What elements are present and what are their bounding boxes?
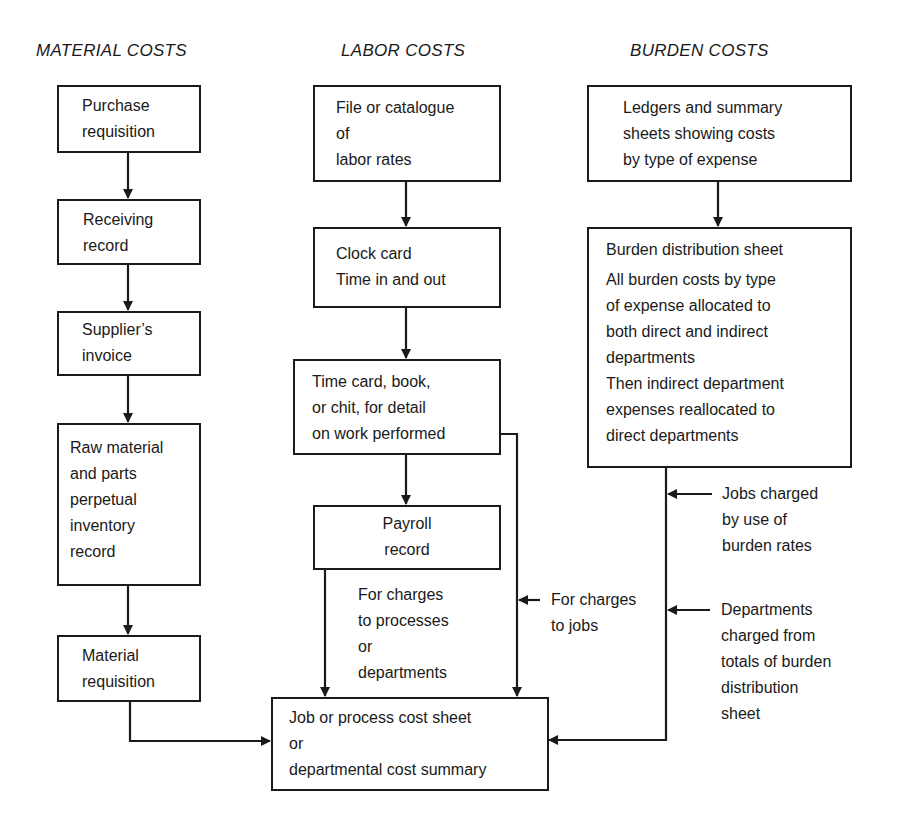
arrow-matreq-to-job bbox=[130, 701, 270, 741]
note-line: sheet bbox=[721, 701, 831, 727]
box-line: Time card, book, bbox=[312, 369, 499, 395]
note-jobs-charged-burden-rates: Jobs charged by use of burden rates bbox=[722, 481, 818, 559]
box-line: and parts bbox=[70, 461, 199, 487]
box-line: record bbox=[315, 537, 499, 563]
box-line: by type of expense bbox=[623, 147, 850, 173]
box-title: Burden distribution sheet bbox=[606, 237, 850, 263]
box-line: record bbox=[83, 233, 199, 259]
box-time-card: Time card, book, or chit, for detail on … bbox=[293, 359, 501, 455]
box-labor-rates-file: File or catalogue of labor rates bbox=[313, 85, 501, 182]
box-line: requisition bbox=[82, 669, 199, 695]
box-line: Ledgers and summary bbox=[623, 95, 850, 121]
arrow-timecard-to-job bbox=[500, 434, 517, 696]
note-line: to jobs bbox=[551, 613, 636, 639]
box-line: on work performed bbox=[312, 421, 499, 447]
box-material-requisition: Material requisition bbox=[57, 635, 201, 702]
box-job-process-cost-sheet: Job or process cost sheet or departmenta… bbox=[271, 697, 549, 791]
box-line: inventory bbox=[70, 513, 199, 539]
box-line: Receiving bbox=[83, 207, 199, 233]
note-line: Jobs charged bbox=[722, 481, 818, 507]
note-line: distribution bbox=[721, 675, 831, 701]
note-line: For charges bbox=[551, 587, 636, 613]
box-line: Material bbox=[82, 643, 199, 669]
note-line: totals of burden bbox=[721, 649, 831, 675]
box-line: invoice bbox=[82, 343, 199, 369]
box-line: requisition bbox=[82, 119, 199, 145]
box-line: departments bbox=[606, 345, 850, 371]
box-line: Raw material bbox=[70, 435, 199, 461]
box-line: Payroll bbox=[315, 511, 499, 537]
heading-labor-costs: LABOR COSTS bbox=[341, 41, 465, 61]
box-line: All burden costs by type bbox=[606, 267, 850, 293]
heading-material-costs: MATERIAL COSTS bbox=[36, 41, 187, 61]
note-line: charged from bbox=[721, 623, 831, 649]
note-charges-to-processes: For charges to processes or departments bbox=[358, 582, 449, 686]
heading-burden-costs: BURDEN COSTS bbox=[630, 41, 769, 61]
note-line: or bbox=[358, 634, 449, 660]
box-burden-distribution-sheet: Burden distribution sheet All burden cos… bbox=[587, 227, 852, 468]
box-line: or chit, for detail bbox=[312, 395, 499, 421]
box-raw-material-inventory: Raw material and parts perpetual invento… bbox=[57, 423, 201, 586]
note-line: burden rates bbox=[722, 533, 818, 559]
note-line: Departments bbox=[721, 597, 831, 623]
box-suppliers-invoice: Supplier’s invoice bbox=[57, 311, 201, 376]
box-line: of bbox=[336, 121, 499, 147]
box-ledgers-summary: Ledgers and summary sheets showing costs… bbox=[587, 85, 852, 182]
note-line: by use of bbox=[722, 507, 818, 533]
note-departments-charged: Departments charged from totals of burde… bbox=[721, 597, 831, 727]
note-line: For charges bbox=[358, 582, 449, 608]
box-line: labor rates bbox=[336, 147, 499, 173]
box-line: perpetual bbox=[70, 487, 199, 513]
box-purchase-requisition: Purchase requisition bbox=[57, 85, 201, 153]
box-line: or bbox=[289, 731, 547, 757]
box-line: Then indirect department bbox=[606, 371, 850, 397]
box-line: of expense allocated to bbox=[606, 293, 850, 319]
box-clock-card: Clock card Time in and out bbox=[313, 227, 501, 308]
box-line: Purchase bbox=[82, 93, 199, 119]
box-line: sheets showing costs bbox=[623, 121, 850, 147]
box-line: expenses reallocated to bbox=[606, 397, 850, 423]
box-line: both direct and indirect bbox=[606, 319, 850, 345]
note-line: to processes bbox=[358, 608, 449, 634]
box-line: record bbox=[70, 539, 199, 565]
box-line: Time in and out bbox=[336, 267, 499, 293]
note-line: departments bbox=[358, 660, 449, 686]
box-line: Job or process cost sheet bbox=[289, 705, 547, 731]
box-line: departmental cost summary bbox=[289, 757, 547, 783]
box-line: Clock card bbox=[336, 241, 499, 267]
box-payroll-record: Payroll record bbox=[313, 505, 501, 570]
box-receiving-record: Receiving record bbox=[57, 199, 201, 265]
box-line: direct departments bbox=[606, 423, 850, 449]
box-line: File or catalogue bbox=[336, 95, 499, 121]
box-line: Supplier’s bbox=[82, 317, 199, 343]
note-charges-to-jobs: For charges to jobs bbox=[551, 587, 636, 639]
